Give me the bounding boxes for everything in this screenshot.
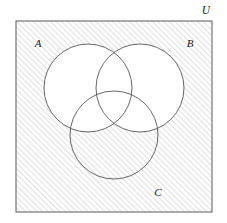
venn-diagram-svg: U A B C (0, 0, 227, 223)
label-set-b: B (187, 37, 194, 49)
label-set-c: C (154, 186, 162, 198)
label-set-a: A (34, 37, 42, 49)
shaded-region-complement-of-a-union-b (16, 21, 212, 212)
venn-diagram-canvas: U A B C (0, 0, 227, 223)
label-universal-set: U (202, 4, 211, 16)
